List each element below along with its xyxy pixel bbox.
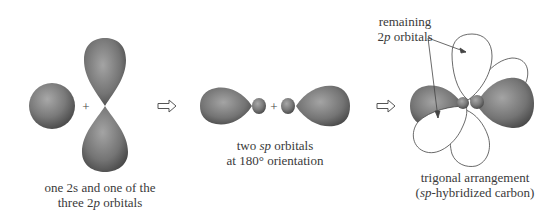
stage3-caption: trigonal arrangement (sp-hybridized carb… [400, 170, 550, 200]
open-right-arrow-icon [158, 100, 176, 112]
stage3-annotation-line2: 2p orbitals [370, 29, 440, 44]
open-right-arrow-icon [377, 100, 395, 112]
stage1-caption: one 2s and one of the three 2p orbitals [10, 180, 190, 210]
stage3-caption-line1: trigonal arrangement [400, 170, 550, 185]
stage3-annotation-line1: remaining [370, 14, 440, 29]
stage3-caption-line2: (sp-hybridized carbon) [400, 185, 550, 200]
2s-orbital [29, 83, 75, 129]
sp-orbital-left [200, 88, 266, 125]
stage1-caption-line2: three 2p orbitals [10, 195, 190, 210]
sp-hybridized-carbon [410, 34, 534, 167]
text: orbitals [390, 29, 432, 44]
sp-orbital-right [281, 86, 350, 127]
plus-sign-2: + [270, 99, 277, 114]
text: -hybridized carbon) [432, 185, 535, 200]
italic-text: sp [420, 185, 432, 200]
stage1-caption-line1: one 2s and one of the [10, 180, 190, 195]
stage2-caption: two sp orbitals at 180° orientation [190, 138, 360, 168]
stage2-caption-line1: two sp orbitals [190, 138, 360, 153]
text: orbitals [271, 138, 313, 153]
stage2-caption-line2: at 180° orientation [190, 153, 360, 168]
text: orbitals [100, 195, 142, 210]
text: three 2 [58, 195, 94, 210]
plus-sign-1: + [82, 99, 89, 114]
italic-text: sp [259, 138, 271, 153]
stage3-annotation: remaining 2p orbitals [370, 14, 440, 44]
text: two [237, 138, 260, 153]
